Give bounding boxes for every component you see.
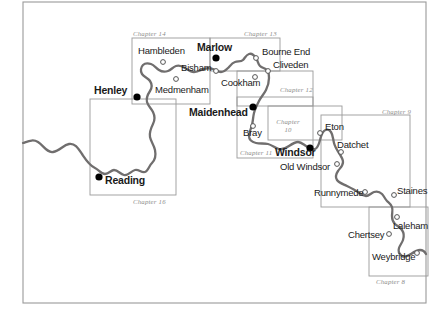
minor-place-marker[interactable] bbox=[266, 69, 271, 74]
place-name-label[interactable]: Hambleden bbox=[138, 46, 185, 56]
chapter-number-label[interactable]: Chapter 13 bbox=[244, 30, 277, 38]
place-name-label[interactable]: Datchet bbox=[337, 140, 368, 150]
place-name-label[interactable]: Laleham bbox=[393, 221, 428, 231]
chapter-number-label[interactable]: Chapter 8 bbox=[376, 278, 405, 286]
place-name-label[interactable]: Staines bbox=[397, 186, 427, 196]
minor-place-marker[interactable] bbox=[318, 131, 323, 136]
place-name-label[interactable]: Medmenham bbox=[155, 85, 209, 95]
place-name-label[interactable]: Reading bbox=[105, 175, 145, 186]
minor-place-marker[interactable] bbox=[387, 232, 392, 237]
major-town-marker[interactable] bbox=[95, 173, 102, 180]
place-name-label[interactable]: Runnymede bbox=[314, 188, 363, 198]
minor-place-marker[interactable] bbox=[339, 150, 344, 155]
major-town-marker[interactable] bbox=[133, 93, 140, 100]
place-name-label[interactable]: Bourne End bbox=[262, 47, 310, 57]
place-name-label[interactable]: Weybridge bbox=[372, 252, 415, 262]
minor-place-marker[interactable] bbox=[335, 162, 340, 167]
place-name-label[interactable]: Cliveden bbox=[273, 60, 308, 70]
chapter-number-label[interactable]: Chapter 16 bbox=[133, 198, 166, 206]
chapter-number-label[interactable]: Chapter 9 bbox=[382, 108, 411, 116]
minor-place-marker[interactable] bbox=[392, 193, 397, 198]
minor-place-marker[interactable] bbox=[395, 215, 400, 220]
minor-place-marker[interactable] bbox=[214, 69, 219, 74]
place-name-label[interactable]: Bray bbox=[243, 128, 262, 138]
place-name-label[interactable]: Chertsey bbox=[348, 230, 384, 240]
place-name-label[interactable]: Maidenhead bbox=[189, 107, 248, 118]
place-name-label[interactable]: Bisham bbox=[181, 63, 211, 73]
chapter-number-label[interactable]: Chapter 11 bbox=[240, 149, 272, 157]
chapter-index-map: HambledenMarlowBourne EndBishamClivedenM… bbox=[0, 0, 433, 311]
chapter-number-label[interactable]: Chapter 14 bbox=[133, 30, 166, 38]
place-name-label[interactable]: Windsor bbox=[275, 147, 316, 158]
minor-place-marker[interactable] bbox=[254, 56, 259, 61]
minor-place-marker[interactable] bbox=[161, 60, 166, 65]
chapter-number-label[interactable]: Chapter 12 bbox=[280, 86, 313, 94]
place-name-label[interactable]: Marlow bbox=[197, 42, 232, 53]
place-name-label[interactable]: Henley bbox=[94, 85, 127, 96]
major-town-marker[interactable] bbox=[249, 103, 256, 110]
place-name-label[interactable]: Old Windsor bbox=[280, 162, 330, 172]
chapter-number-label[interactable]: Chapter10 bbox=[276, 118, 300, 134]
major-town-marker[interactable] bbox=[212, 54, 219, 61]
place-name-label[interactable]: Cookham bbox=[221, 78, 260, 88]
minor-place-marker[interactable] bbox=[174, 77, 179, 82]
place-name-label[interactable]: Eton bbox=[325, 122, 344, 132]
